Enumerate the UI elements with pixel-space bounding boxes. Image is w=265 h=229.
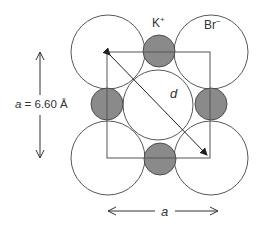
bottom-edge-label: a: [161, 204, 168, 219]
cation-charge: +: [160, 15, 165, 24]
svg-text:K+: K+: [152, 15, 165, 30]
anion-label: Br: [204, 18, 216, 32]
kbr-unit-cell-diagram: K+ Br− d a = 6.60 Å a: [0, 0, 265, 229]
svg-text:a = 6.60 Å: a = 6.60 Å: [15, 98, 68, 110]
diagonal-label: d: [170, 86, 178, 101]
potassium-ion-bottom: [144, 143, 176, 175]
potassium-ion-top: [143, 35, 175, 67]
edge-value: = 6.60 Å: [21, 98, 68, 110]
potassium-ion-right: [195, 88, 227, 120]
cation-label: K: [152, 16, 160, 30]
anion-charge: −: [216, 17, 221, 26]
